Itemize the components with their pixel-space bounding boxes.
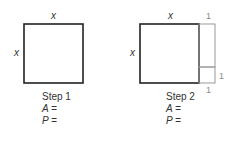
step2-top-label: x (168, 11, 173, 21)
step1-top-label: x (51, 11, 56, 21)
step2-square (140, 24, 199, 83)
step1-area-line: A = (42, 103, 57, 114)
step2-area-line: A = (166, 103, 181, 114)
step2-perimeter-line: P = (166, 115, 181, 126)
step1-square (24, 24, 83, 83)
step2-strip-bottom-label: 1 (206, 86, 211, 95)
step2-strip-side-label: 1 (219, 72, 224, 81)
step2-strip-top-label: 1 (206, 12, 211, 21)
step2-strip (199, 24, 215, 67)
step1-side-label: x (14, 48, 19, 58)
step2-unit-square (199, 67, 215, 83)
algebra-tiles-diagram: x x Step 1 A = P = x x 1 1 1 Step 2 A = … (0, 0, 234, 144)
step2-side-label: x (130, 48, 135, 58)
step1-perimeter-line: P = (42, 115, 57, 126)
step1-caption: Step 1 (42, 91, 71, 102)
step2-caption: Step 2 (166, 91, 195, 102)
